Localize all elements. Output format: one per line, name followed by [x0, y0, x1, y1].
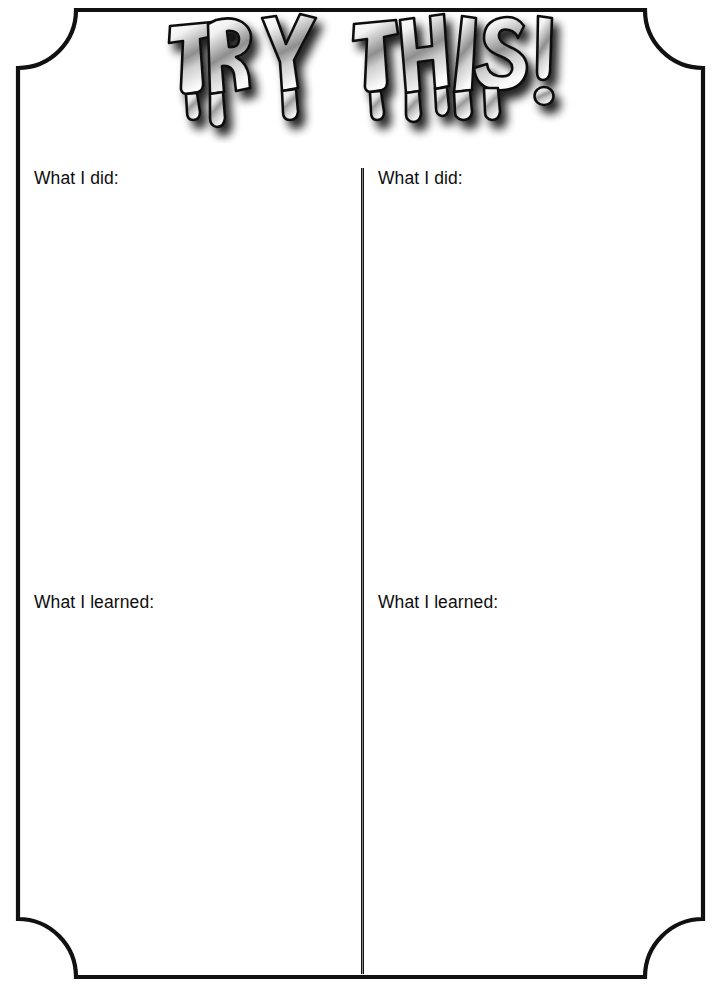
label-what-i-learned-right: What I learned:	[378, 592, 498, 613]
title-artwork: TRY THIS!	[150, 8, 570, 143]
title-word-this	[353, 14, 554, 122]
label-what-i-did-right: What I did:	[378, 168, 463, 189]
answer-area-what-i-learned-left[interactable]	[34, 618, 364, 966]
answer-area-what-i-did-left[interactable]	[34, 194, 364, 590]
label-what-i-learned-left: What I learned:	[34, 592, 154, 613]
label-what-i-did-left: What I did:	[34, 168, 119, 189]
worksheet-page: TRY THIS!	[0, 0, 721, 987]
column-right: What I did: What I learned:	[378, 160, 708, 970]
title-word-try	[169, 14, 316, 127]
column-left: What I did: What I learned:	[34, 160, 364, 970]
answer-area-what-i-did-right[interactable]	[378, 194, 708, 590]
answer-area-what-i-learned-right[interactable]	[378, 618, 708, 966]
